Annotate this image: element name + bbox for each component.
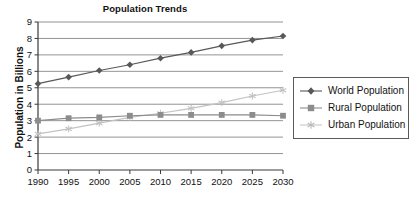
- legend-label: World Population: [328, 86, 404, 96]
- data-point-marker: [188, 112, 194, 118]
- x-tick-label: 2020: [211, 176, 232, 187]
- data-point-marker: [127, 61, 134, 68]
- y-axis-tick-labels: 0123456789: [27, 16, 32, 175]
- y-tick-label: 7: [27, 49, 32, 60]
- y-tick-label: 1: [27, 148, 32, 159]
- x-tick-label: 1990: [27, 176, 48, 187]
- data-point-marker: [35, 118, 41, 124]
- x-tick-label: 2010: [150, 176, 171, 187]
- y-tick-label: 9: [27, 16, 32, 27]
- legend-item-world-population: World Population: [294, 82, 408, 99]
- data-point-marker: [96, 67, 103, 74]
- x-tick-label: 2025: [242, 176, 263, 187]
- star-marker-icon: [299, 118, 323, 132]
- data-point-marker: [157, 55, 164, 62]
- data-series-layer: [35, 33, 287, 138]
- square-marker-icon: [299, 101, 323, 115]
- y-tick-label: 8: [27, 33, 32, 44]
- data-point-marker: [218, 43, 225, 50]
- y-tick-label: 3: [27, 115, 32, 126]
- y-tick-label: 5: [27, 82, 32, 93]
- diamond-marker-icon: [299, 84, 323, 98]
- x-tick-label: 1995: [58, 176, 79, 187]
- data-point-marker: [35, 80, 42, 87]
- data-point-marker: [127, 113, 133, 119]
- data-point-marker: [158, 112, 164, 118]
- data-point-marker: [66, 115, 72, 121]
- chart-legend: World Population Rural Population Urban …: [293, 77, 409, 139]
- legend-label: Urban Population: [328, 120, 405, 130]
- data-point-marker: [249, 112, 255, 118]
- x-tick-label: 2030: [272, 176, 293, 187]
- y-tick-label: 2: [27, 132, 32, 143]
- y-tick-label: 4: [27, 99, 32, 110]
- data-point-marker: [219, 112, 225, 118]
- y-tick-label: 6: [27, 66, 32, 77]
- x-axis-tick-labels: 199019952000200520102015202020252030: [27, 176, 293, 187]
- legend-item-urban-population: Urban Population: [294, 116, 408, 133]
- population-trends-chart: Population Trends Population in Billions…: [0, 0, 414, 197]
- x-tick-label: 2015: [181, 176, 202, 187]
- x-tick-label: 2005: [119, 176, 140, 187]
- series-rural-population: [35, 112, 286, 124]
- legend-item-rural-population: Rural Population: [294, 99, 408, 116]
- x-axis-ticks: [38, 170, 283, 174]
- data-point-marker: [280, 113, 286, 119]
- data-point-marker: [96, 114, 102, 120]
- data-point-marker: [65, 74, 72, 81]
- y-tick-label: 0: [27, 164, 32, 175]
- data-point-marker: [249, 37, 256, 44]
- x-tick-label: 2000: [89, 176, 110, 187]
- series-world-population: [35, 33, 287, 87]
- axis-lines: [38, 22, 283, 170]
- legend-label: Rural Population: [328, 103, 402, 113]
